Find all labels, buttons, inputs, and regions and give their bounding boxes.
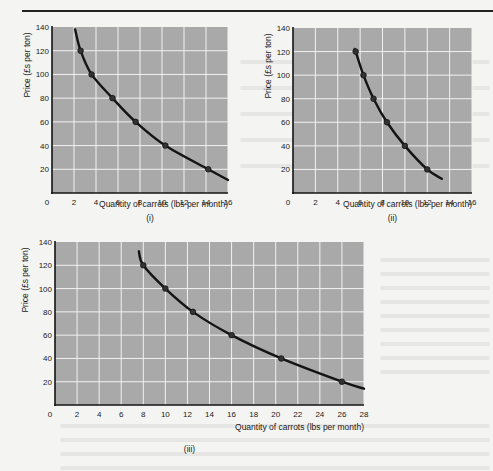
x-tick-label: 16 bbox=[227, 410, 236, 419]
y-tick-label: 120 bbox=[39, 261, 53, 270]
y-tick-label: 40 bbox=[43, 354, 52, 363]
x-tick-label: 2 bbox=[75, 410, 80, 419]
x-tick-label: 8 bbox=[141, 410, 146, 419]
data-point-marker bbox=[229, 332, 235, 338]
y-tick-label: 140 bbox=[39, 238, 53, 247]
x-tick-label: 10 bbox=[161, 410, 170, 419]
x-tick-label: 0 bbox=[48, 410, 53, 419]
x-tick-label: 12 bbox=[183, 410, 192, 419]
x-axis-label: Quantity of carrots (lbs per month) bbox=[235, 422, 364, 432]
data-point-marker bbox=[278, 356, 284, 362]
x-tick-label: 14 bbox=[205, 410, 214, 419]
panel-caption: (iii) bbox=[184, 444, 195, 454]
x-tick-label: 28 bbox=[360, 410, 369, 419]
data-point-marker bbox=[190, 309, 196, 315]
y-tick-label: 100 bbox=[39, 285, 53, 294]
x-tick-label: 24 bbox=[315, 410, 324, 419]
x-tick-label: 26 bbox=[337, 410, 346, 419]
x-tick-label: 4 bbox=[97, 410, 102, 419]
x-tick-label: 20 bbox=[271, 410, 280, 419]
data-point-marker bbox=[163, 286, 169, 292]
y-tick-label: 20 bbox=[43, 378, 52, 387]
y-tick-label: 80 bbox=[43, 308, 52, 317]
x-tick-label: 18 bbox=[249, 410, 258, 419]
x-tick-label: 22 bbox=[293, 410, 302, 419]
y-axis-label: Price (£s per ton) bbox=[20, 247, 30, 312]
y-tick-label: 60 bbox=[43, 331, 52, 340]
data-point-marker bbox=[339, 379, 345, 385]
x-tick-label: 6 bbox=[119, 410, 124, 419]
data-point-marker bbox=[140, 262, 146, 268]
